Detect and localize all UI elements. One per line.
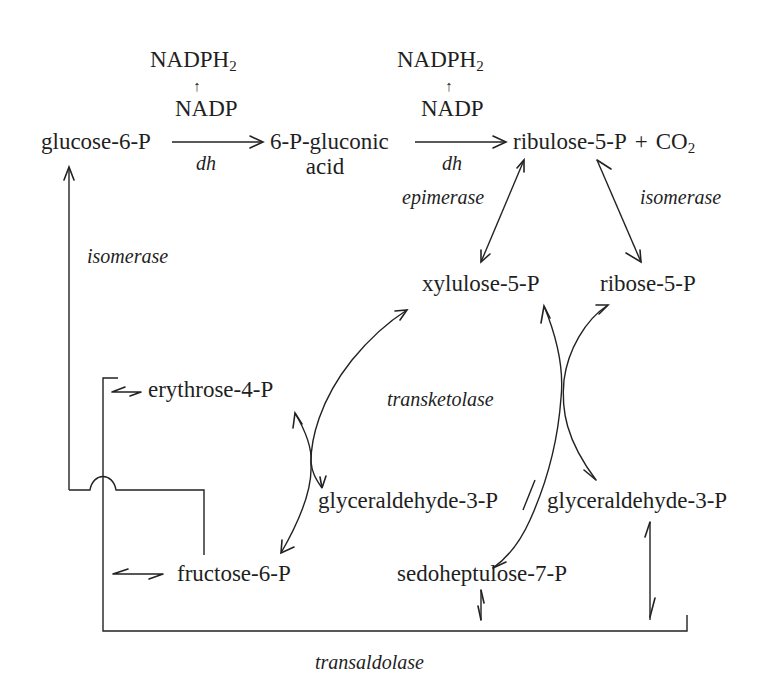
- cofactor-group-right: NADPH2 ↑ NADP: [397, 47, 484, 121]
- gluconic-acid-label-line2: acid: [306, 154, 345, 179]
- arrowhead-up-icon: [293, 413, 302, 428]
- glyceraldehyde-3-phosphate-left-label: glyceraldehyde-3-P: [318, 488, 498, 513]
- exchange-arrow-erythrose-icon: [112, 387, 141, 396]
- ribose-5-phosphate-label: ribose-5-P: [600, 271, 696, 296]
- enzyme-epimerase: epimerase: [402, 186, 484, 209]
- arrowhead-icon: [395, 310, 407, 320]
- arrowhead-up-icon: [541, 306, 550, 323]
- arrowhead-down-icon: [320, 476, 326, 488]
- erythrose-4-phosphate-label: erythrose-4-P: [148, 377, 273, 402]
- nadp-label-right: NADP: [421, 96, 484, 121]
- cofactor-group-left: NADPH2 ↑ NADP: [150, 47, 238, 121]
- enzyme-dh-1: dh: [196, 152, 216, 174]
- arrow-ribulose-xylulose: [481, 160, 524, 262]
- pentose-phosphate-pathway-diagram: NADPH2 ↑ NADP NADPH2 ↑ NADP glucose-6-P …: [0, 0, 783, 692]
- nadph2-label-left: NADPH2: [150, 47, 237, 74]
- arrowhead-up-icon: [517, 160, 524, 172]
- sedoheptulose-7-phosphate-label: sedoheptulose-7-P: [397, 561, 567, 586]
- enzyme-transaldolase: transaldolase: [315, 651, 424, 673]
- cofactor-up-arrow-left-icon: ↑: [193, 78, 201, 94]
- divider-slash: [523, 480, 535, 510]
- curve-erythrose-glyceraldehyde: [295, 413, 322, 488]
- xylulose-5-phosphate-label: xylulose-5-P: [422, 271, 540, 296]
- connector-glucose-fructose: [69, 477, 204, 556]
- curve-fructose-to-xylulose: [281, 310, 407, 553]
- arrowhead-up-icon: [645, 522, 650, 537]
- enzyme-isomerase-left: isomerase: [87, 245, 168, 267]
- nadph2-label-right: NADPH2: [397, 47, 484, 74]
- ribulose-5-phosphate-label: ribulose-5-P+CO2: [513, 129, 695, 156]
- arrow-ribulose-ribose: [597, 160, 641, 262]
- glyceraldehyde-3-phosphate-right-label: glyceraldehyde-3-P: [547, 488, 727, 513]
- enzyme-dh-2: dh: [442, 152, 462, 174]
- curve-sedoheptulose-xylulose: [493, 306, 562, 568]
- curve-ribose-glyceraldehyde: [563, 305, 608, 480]
- arrowhead-down-icon: [650, 598, 655, 617]
- enzyme-transketolase: transketolase: [387, 388, 494, 410]
- glucose-6-phosphate-label: glucose-6-P: [41, 129, 151, 154]
- cofactor-up-arrow-right-icon: ↑: [445, 78, 453, 94]
- fructose-6-phosphate-label: fructose-6-P: [177, 561, 291, 586]
- gluconic-acid-label-line1: 6-P-gluconic: [270, 129, 389, 154]
- enzyme-isomerase-right: isomerase: [640, 186, 721, 208]
- nadp-label-left: NADP: [175, 96, 238, 121]
- exchange-arrow-fructose-icon: [113, 569, 163, 579]
